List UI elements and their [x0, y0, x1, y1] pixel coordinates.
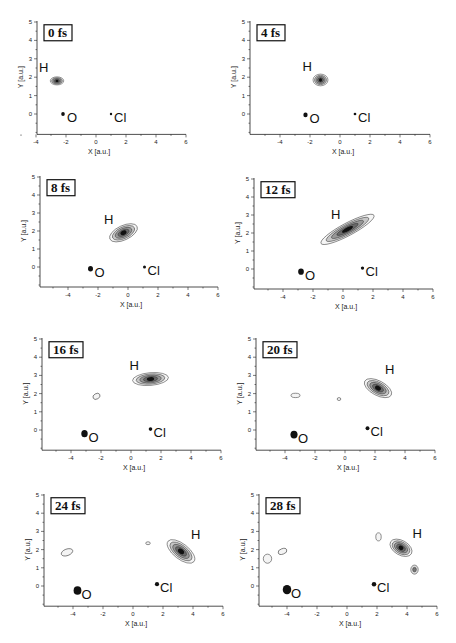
svg-text:X [a.u.]: X [a.u.]	[123, 464, 145, 472]
svg-text:Y [a.u.]: Y [a.u.]	[22, 383, 30, 405]
svg-text:Cl: Cl	[358, 110, 370, 125]
svg-text:2: 2	[246, 230, 250, 236]
panel-28-fs: 012345-4-20246X [a.u.]Y [a.u.]28 fsOClH	[228, 480, 456, 640]
svg-text:O: O	[89, 430, 99, 445]
svg-text:0 fs: 0 fs	[48, 25, 67, 40]
svg-text:5: 5	[242, 19, 246, 25]
svg-text:2: 2	[36, 547, 40, 553]
svg-text:Y [a.u.]: Y [a.u.]	[17, 66, 25, 88]
svg-text:Cl: Cl	[114, 110, 126, 125]
svg-text:5: 5	[246, 176, 250, 182]
svg-text:Y [a.u.]: Y [a.u.]	[24, 539, 32, 561]
svg-text:0: 0	[126, 292, 130, 298]
svg-text:4: 4	[251, 510, 255, 516]
svg-text:16 fs: 16 fs	[53, 342, 79, 357]
panel-12-fs: 012345-4-20246X [a.u.]Y [a.u.]12 fsOClH	[228, 160, 456, 320]
svg-text:4: 4	[29, 37, 33, 43]
svg-text:1: 1	[34, 409, 38, 415]
svg-text:4: 4	[401, 294, 405, 300]
svg-text:1: 1	[242, 93, 246, 99]
svg-text:4: 4	[405, 611, 409, 617]
svg-text:-4: -4	[280, 294, 286, 300]
svg-text:2: 2	[242, 74, 246, 80]
svg-text:3: 3	[251, 528, 255, 534]
svg-text:6: 6	[428, 139, 432, 145]
panel-8-fs: 012345-4-20246X [a.u.]Y [a.u.]8 fsOClH	[0, 160, 228, 320]
svg-text:Cl: Cl	[160, 580, 172, 595]
svg-text:Y [a.u.]: Y [a.u.]	[234, 222, 242, 244]
svg-text:2: 2	[375, 611, 379, 617]
svg-text:2: 2	[373, 455, 377, 461]
svg-text:Y [a.u.]: Y [a.u.]	[230, 66, 238, 88]
svg-text:5: 5	[32, 174, 36, 180]
svg-text:0: 0	[251, 583, 255, 589]
svg-text:0: 0	[94, 139, 98, 145]
svg-text:20 fs: 20 fs	[267, 342, 293, 357]
svg-text:Y [a.u.]: Y [a.u.]	[20, 220, 28, 242]
svg-text:4: 4	[398, 139, 402, 145]
svg-text:2: 2	[156, 292, 160, 298]
svg-text:-2: -2	[310, 294, 316, 300]
svg-text:Cl: Cl	[148, 263, 160, 278]
svg-text:1: 1	[251, 565, 255, 571]
svg-text:-2: -2	[312, 455, 318, 461]
svg-text:0: 0	[129, 455, 133, 461]
svg-text:4: 4	[189, 455, 193, 461]
svg-text:X [a.u.]: X [a.u.]	[120, 301, 142, 309]
svg-text:3: 3	[36, 528, 40, 534]
svg-text:4: 4	[246, 194, 250, 200]
svg-text:H: H	[331, 207, 340, 222]
svg-text:0: 0	[338, 139, 342, 145]
contour-plot: 012345-4-20246X [a.u.]Y [a.u.]12 fsOClH	[228, 160, 456, 320]
svg-text:-2: -2	[95, 292, 101, 298]
svg-text:3: 3	[32, 210, 36, 216]
svg-text:5: 5	[248, 336, 252, 342]
svg-text:6: 6	[431, 294, 435, 300]
svg-text:O: O	[67, 110, 77, 125]
svg-text:12 fs: 12 fs	[265, 182, 291, 197]
svg-text:O: O	[298, 431, 308, 446]
panel-20-fs: 012345-4-20246X [a.u.]Y [a.u.]20 fsOClH	[228, 320, 456, 480]
svg-text:H: H	[104, 212, 113, 227]
svg-text:6: 6	[216, 292, 220, 298]
svg-text:1: 1	[32, 246, 36, 252]
svg-text:O: O	[310, 111, 320, 126]
contour-plot: 012345-4-20246X [a.u.]Y [a.u.]20 fsOClH	[228, 320, 456, 480]
panel-0-fs: 012345-4-20246X [a.u.]Y [a.u.]0 fsOClH	[0, 0, 228, 160]
svg-text:3: 3	[34, 372, 38, 378]
svg-text:6: 6	[219, 455, 223, 461]
svg-text:-2: -2	[98, 455, 104, 461]
svg-text:0: 0	[34, 427, 38, 433]
svg-text:0: 0	[246, 266, 250, 272]
panel-4-fs: 012345-4-20246X [a.u.]Y [a.u.]4 fsOClH	[228, 0, 456, 160]
svg-text:O: O	[82, 587, 92, 602]
svg-text:2: 2	[371, 294, 375, 300]
svg-text:O: O	[291, 586, 301, 601]
svg-text:-4: -4	[277, 139, 283, 145]
svg-text:3: 3	[248, 372, 252, 378]
svg-text:O: O	[305, 268, 315, 283]
svg-text:2: 2	[251, 547, 255, 553]
svg-text:6: 6	[221, 611, 225, 617]
contour-plot: 012345-4-20246X [a.u.]Y [a.u.]28 fsOClH	[228, 480, 456, 640]
svg-text:3: 3	[29, 56, 33, 62]
svg-text:X [a.u.]: X [a.u.]	[339, 620, 361, 628]
svg-text:3: 3	[242, 56, 246, 62]
svg-text:X [a.u.]: X [a.u.]	[337, 464, 359, 472]
svg-text:X [a.u.]: X [a.u.]	[88, 148, 110, 156]
svg-text:Cl: Cl	[366, 264, 378, 279]
svg-text:H: H	[130, 358, 139, 373]
contour-plot: 012345-4-20246X [a.u.]Y [a.u.]24 fsOClH	[0, 480, 228, 640]
svg-text:-2: -2	[307, 139, 313, 145]
svg-text:Cl: Cl	[371, 424, 383, 439]
svg-text:4: 4	[36, 510, 40, 516]
svg-text:2: 2	[368, 139, 372, 145]
svg-text:0: 0	[248, 427, 252, 433]
svg-text:2: 2	[161, 611, 165, 617]
svg-text:2: 2	[34, 391, 38, 397]
svg-text:Cl: Cl	[377, 580, 389, 595]
svg-text:4: 4	[242, 37, 246, 43]
svg-text:-2: -2	[100, 611, 106, 617]
svg-text:1: 1	[36, 565, 40, 571]
svg-text:0: 0	[343, 455, 347, 461]
